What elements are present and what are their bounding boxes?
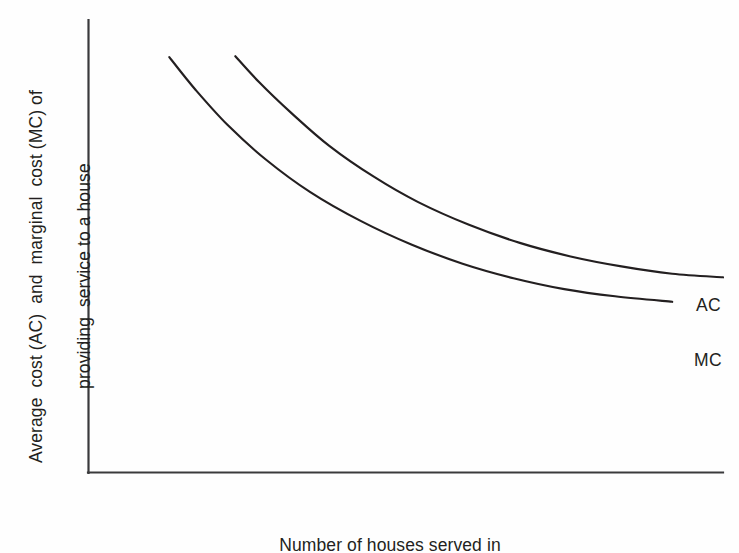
ac-curve-label: AC <box>696 295 721 316</box>
y-axis-title-line2: providing service to a house <box>74 163 94 389</box>
y-axis-title: Average cost (AC) and marginal cost (MC)… <box>0 0 56 500</box>
chart-figure: Average cost (AC) and marginal cost (MC)… <box>0 0 739 553</box>
y-axis-title-line1: Average cost (AC) and marginal cost (MC)… <box>26 90 46 463</box>
x-axis-title-line1: Number of houses served in <box>200 533 580 553</box>
mc-curve-label: MC <box>694 350 722 371</box>
ac-curve <box>235 56 723 277</box>
mc-curve <box>169 57 672 302</box>
x-axis-title: Number of houses served in a particular … <box>200 483 580 553</box>
